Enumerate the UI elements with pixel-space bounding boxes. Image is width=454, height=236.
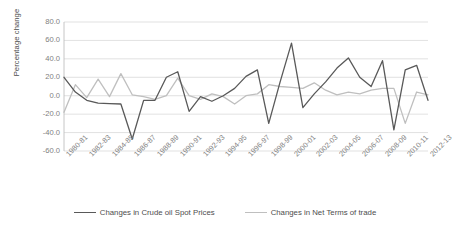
y-axis-tick-label: 0.0 <box>20 92 60 100</box>
legend-item[interactable]: Changes in Net Terms of trade <box>245 208 377 217</box>
y-axis-tick-label: 60.0 <box>20 36 60 44</box>
y-axis-tick-label: -20.0 <box>20 110 60 118</box>
y-axis-tick-label: 80.0 <box>20 18 60 26</box>
legend-swatch <box>74 212 96 213</box>
y-axis-tick-label: -40.0 <box>20 129 60 137</box>
legend-item[interactable]: Changes in Crude oil Spot Prices <box>74 208 215 217</box>
plot-area <box>64 22 428 151</box>
plot-svg <box>64 22 428 151</box>
legend-label: Changes in Net Terms of trade <box>271 208 377 217</box>
x-axis-tick-labels: 1980-811982-831984-851986-871988-891990-… <box>64 152 436 202</box>
y-axis-tick-label: 40.0 <box>20 55 60 63</box>
chart-legend: Changes in Crude oil Spot PricesChanges … <box>0 208 450 217</box>
legend-swatch <box>245 212 267 213</box>
x-axis-tick-label: 2012-13 <box>428 133 454 159</box>
series-line <box>64 43 428 139</box>
y-axis-tick-label: 20.0 <box>20 73 60 81</box>
y-axis-tick-label: -60.0 <box>20 147 60 155</box>
legend-label: Changes in Crude oil Spot Prices <box>100 208 215 217</box>
y-axis-tick-labels: 80.060.040.020.00.0-20.0-40.0-60.0 <box>14 18 60 158</box>
